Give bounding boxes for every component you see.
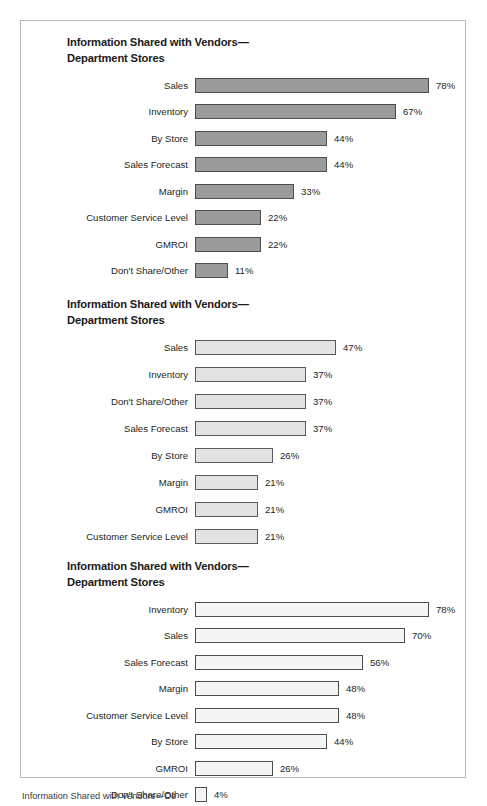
- figure-caption: Information Shared with Vendors—De: [22, 790, 466, 804]
- bar-value-label: 78%: [429, 80, 455, 91]
- chart-panel-2: Information Shared with Vendors— Departm…: [21, 297, 465, 553]
- bar-value-label: 11%: [228, 265, 254, 276]
- bar: [195, 602, 429, 617]
- bar-row: Sales78%: [67, 75, 457, 95]
- bar-category-label: Margin: [67, 186, 195, 197]
- bar-track: 21%: [195, 475, 457, 490]
- bar-category-label: Sales: [67, 342, 195, 353]
- chart-panel-1: Information Shared with Vendors— Departm…: [21, 35, 465, 287]
- chart-1-bars: Sales78%Inventory67%By Store44%Sales For…: [67, 75, 457, 281]
- bar: [195, 394, 306, 409]
- bar-category-label: Inventory: [67, 106, 195, 117]
- bar-row: Don't Share/Other11%: [67, 261, 457, 281]
- bar-track: 44%: [195, 131, 457, 146]
- bar-track: 11%: [195, 263, 457, 278]
- bar: [195, 157, 327, 172]
- bar-track: 26%: [195, 761, 457, 776]
- bar-category-label: GMROI: [67, 239, 195, 250]
- bar-value-label: 44%: [327, 736, 353, 747]
- bar-value-label: 26%: [273, 763, 299, 774]
- bar-row: Margin33%: [67, 181, 457, 201]
- chart-3-title: Information Shared with Vendors— Departm…: [67, 559, 457, 590]
- bar-track: 26%: [195, 448, 457, 463]
- bar-category-label: Inventory: [67, 369, 195, 380]
- chart-panel-3: Information Shared with Vendors— Departm…: [21, 559, 465, 806]
- bar-row: By Store44%: [67, 732, 457, 752]
- bar-value-label: 37%: [306, 369, 332, 380]
- bar: [195, 708, 339, 723]
- bar-row: Margin21%: [67, 472, 457, 492]
- bar-row: Customer Service Level22%: [67, 208, 457, 228]
- bar-row: Sales Forecast44%: [67, 155, 457, 175]
- bar-row: Don't Share/Other37%: [67, 391, 457, 411]
- bar-track: 78%: [195, 602, 457, 617]
- chart-2-title: Information Shared with Vendors— Departm…: [67, 297, 457, 328]
- bar-category-label: Don't Share/Other: [67, 265, 195, 276]
- bar-category-label: Customer Service Level: [67, 710, 195, 721]
- bar-track: 22%: [195, 237, 457, 252]
- bar-value-label: 44%: [327, 133, 353, 144]
- bar-row: By Store26%: [67, 445, 457, 465]
- bar-track: 37%: [195, 367, 457, 382]
- bar-row: GMROI21%: [67, 499, 457, 519]
- bar-category-label: Sales: [67, 80, 195, 91]
- bar-row: GMROI22%: [67, 234, 457, 254]
- bar-value-label: 48%: [339, 710, 365, 721]
- bar-value-label: 21%: [258, 504, 284, 515]
- bar-category-label: Customer Service Level: [67, 212, 195, 223]
- bar: [195, 448, 273, 463]
- bar-category-label: Inventory: [67, 604, 195, 615]
- bar: [195, 131, 327, 146]
- bar-row: Customer Service Level21%: [67, 526, 457, 546]
- bar-value-label: 22%: [261, 239, 287, 250]
- bar-category-label: Sales Forecast: [67, 657, 195, 668]
- bar-category-label: GMROI: [67, 763, 195, 774]
- bar-category-label: Margin: [67, 477, 195, 488]
- bar-row: GMROI26%: [67, 758, 457, 778]
- bar-track: 48%: [195, 681, 457, 696]
- bar-value-label: 78%: [429, 604, 455, 615]
- bar-row: Inventory78%: [67, 599, 457, 619]
- bar-category-label: GMROI: [67, 504, 195, 515]
- bar-track: 70%: [195, 628, 457, 643]
- bar-track: 67%: [195, 104, 457, 119]
- bar: [195, 263, 228, 278]
- bar-category-label: Margin: [67, 683, 195, 694]
- bar-track: 48%: [195, 708, 457, 723]
- bar-track: 78%: [195, 78, 457, 93]
- bar: [195, 475, 258, 490]
- bar-row: By Store44%: [67, 128, 457, 148]
- bar-track: 21%: [195, 529, 457, 544]
- bar-value-label: 67%: [396, 106, 422, 117]
- bar-row: Sales Forecast37%: [67, 418, 457, 438]
- bar: [195, 421, 306, 436]
- bar: [195, 734, 327, 749]
- bar-row: Inventory37%: [67, 364, 457, 384]
- bar-category-label: Sales Forecast: [67, 423, 195, 434]
- bar: [195, 340, 336, 355]
- bar-row: Sales47%: [67, 337, 457, 357]
- bar: [195, 367, 306, 382]
- bar-value-label: 70%: [405, 630, 431, 641]
- bar-category-label: Customer Service Level: [67, 531, 195, 542]
- bar-row: Margin48%: [67, 679, 457, 699]
- bar-row: Inventory67%: [67, 102, 457, 122]
- bar-track: 33%: [195, 184, 457, 199]
- bar: [195, 529, 258, 544]
- bar: [195, 628, 405, 643]
- bar-track: 37%: [195, 421, 457, 436]
- bar-value-label: 48%: [339, 683, 365, 694]
- bar-track: 47%: [195, 340, 457, 355]
- bar-value-label: 47%: [336, 342, 362, 353]
- bar-row: Sales70%: [67, 626, 457, 646]
- bar: [195, 237, 261, 252]
- bar-category-label: Don't Share/Other: [67, 396, 195, 407]
- bar-row: Sales Forecast56%: [67, 652, 457, 672]
- bar-value-label: 56%: [363, 657, 389, 668]
- bar: [195, 655, 363, 670]
- bar-value-label: 21%: [258, 531, 284, 542]
- bar-category-label: By Store: [67, 450, 195, 461]
- bar: [195, 210, 261, 225]
- bar-track: 44%: [195, 157, 457, 172]
- bar-value-label: 37%: [306, 423, 332, 434]
